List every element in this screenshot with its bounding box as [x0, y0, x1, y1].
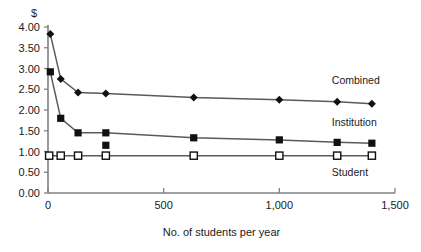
marker-filled-square — [102, 129, 109, 136]
marker-filled-square — [102, 142, 109, 149]
marker-open-square — [46, 152, 53, 159]
y-tick-label: 0.50 — [19, 166, 40, 178]
x-tick-labels: 05001,0001,500 — [45, 199, 409, 211]
marker-filled-square — [190, 134, 197, 141]
series-line — [50, 34, 372, 104]
marker-open-square — [102, 152, 109, 159]
y-tick-label: 2.50 — [19, 83, 40, 95]
marker-filled-square — [74, 129, 81, 136]
marker-filled-diamond — [102, 89, 110, 97]
series-layer — [46, 30, 376, 159]
marker-open-square — [57, 152, 64, 159]
x-tick-label: 1,500 — [381, 199, 409, 211]
y-tick-label: 0.00 — [19, 187, 40, 199]
y-tick-label: 2.00 — [19, 104, 40, 116]
x-tick-group — [48, 188, 395, 193]
y-tick-label: 3.50 — [19, 42, 40, 54]
marker-filled-square — [334, 139, 341, 146]
marker-open-square — [74, 152, 81, 159]
y-axis-title: $ — [31, 7, 37, 19]
marker-filled-square — [47, 68, 54, 75]
marker-open-square — [190, 152, 197, 159]
y-tick-label: 4.00 — [19, 21, 40, 33]
series-label-layer: CombinedInstitutionStudent — [332, 74, 380, 177]
y-tick-label: 3.00 — [19, 63, 40, 75]
marker-filled-diamond — [368, 100, 376, 108]
chart-canvas: 0.000.501.001.502.002.503.003.504.00 $ 0… — [0, 0, 421, 252]
x-tick-label: 500 — [154, 199, 172, 211]
x-axis-title: No. of students per year — [163, 226, 281, 238]
marker-open-square — [334, 152, 341, 159]
marker-filled-diamond — [190, 94, 198, 102]
series-label-student: Student — [332, 166, 368, 178]
marker-open-square — [276, 152, 283, 159]
chart-figure: 0.000.501.001.502.002.503.003.504.00 $ 0… — [0, 0, 421, 252]
series-label-combined: Combined — [332, 74, 380, 86]
y-tick-label: 1.50 — [19, 125, 40, 137]
series-institution — [47, 68, 376, 149]
series-combined — [46, 30, 376, 108]
y-axis-group: 0.000.501.001.502.002.503.003.504.00 $ — [19, 7, 48, 199]
x-axis-group: 05001,0001,500 No. of students per year — [45, 188, 409, 238]
marker-filled-diamond — [275, 96, 283, 104]
series-student — [46, 152, 376, 159]
marker-filled-square — [368, 140, 375, 147]
series-label-institution: Institution — [332, 116, 377, 128]
marker-open-square — [368, 152, 375, 159]
marker-filled-square — [276, 136, 283, 143]
marker-filled-square — [57, 115, 64, 122]
x-tick-label: 0 — [45, 199, 51, 211]
y-tick-label: 1.00 — [19, 146, 40, 158]
y-tick-labels: 0.000.501.001.502.002.503.003.504.00 — [19, 21, 40, 199]
x-tick-label: 1,000 — [266, 199, 294, 211]
marker-filled-diamond — [333, 98, 341, 106]
series-line — [50, 72, 372, 143]
